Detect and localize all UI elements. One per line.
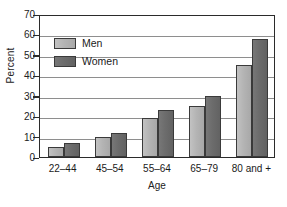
- legend-label-women: Women: [82, 56, 118, 67]
- y-axis-label: Percent: [5, 34, 16, 98]
- bar-women: [205, 96, 221, 157]
- x-axis-tick-labels: 22–4445–5455–6465–7980 and +: [39, 163, 275, 175]
- bar-chart: Percent 010203040506070 Men Women 22–444…: [0, 0, 287, 207]
- y-axis-tick-labels: 010203040506070: [16, 0, 35, 207]
- x-axis-label: Age: [39, 180, 275, 191]
- y-tick-mark: [33, 96, 39, 97]
- legend-swatch-men-icon: [54, 38, 76, 49]
- bar-group: [182, 16, 229, 157]
- x-tick-label: 80 and +: [228, 163, 275, 174]
- y-tick-mark: [33, 35, 39, 36]
- bar-men: [95, 137, 111, 157]
- y-tick-mark: [33, 15, 39, 16]
- bar-women: [158, 110, 174, 157]
- bar-men: [189, 106, 205, 157]
- x-tick-label: 65–79: [181, 163, 228, 174]
- legend-swatch-women-icon: [54, 56, 76, 67]
- x-tick-label: 45–54: [86, 163, 133, 174]
- y-tick-mark: [33, 137, 39, 138]
- x-tick-label: 55–64: [133, 163, 180, 174]
- legend-item-women: Women: [54, 54, 118, 68]
- y-tick-mark: [33, 117, 39, 118]
- bar-men: [236, 65, 252, 157]
- bar-group: [229, 16, 275, 157]
- legend-item-men: Men: [54, 36, 118, 50]
- y-tick-mark: [33, 55, 39, 56]
- bar-men: [48, 147, 64, 157]
- x-tick-label: 22–44: [39, 163, 86, 174]
- legend-label-men: Men: [82, 38, 102, 49]
- bar-men: [142, 118, 158, 157]
- bar-group: [134, 16, 181, 157]
- legend: Men Women: [54, 36, 118, 72]
- y-tick-mark: [33, 76, 39, 77]
- bar-women: [111, 133, 127, 158]
- bar-women: [252, 39, 268, 157]
- bar-women: [64, 143, 80, 157]
- y-tick-mark: [33, 158, 39, 159]
